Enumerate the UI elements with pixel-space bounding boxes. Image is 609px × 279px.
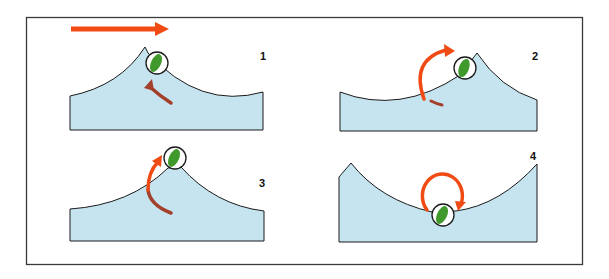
panel-label: 1 [260, 50, 266, 62]
wave-ball-diagram: 1 2 3 4 [0, 0, 609, 279]
panel-label: 2 [532, 50, 538, 62]
ball-icon [146, 52, 168, 74]
ball-icon [454, 57, 476, 79]
panel-label: 3 [259, 177, 265, 189]
ball-icon [164, 147, 186, 169]
panel-label: 4 [530, 150, 537, 162]
ball-icon [432, 204, 454, 226]
